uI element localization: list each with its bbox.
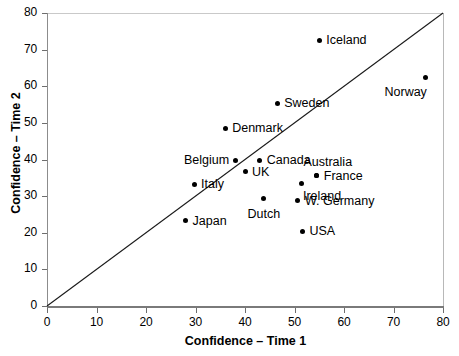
identity-reference-line [47, 13, 443, 306]
x-axis-tick-label: 50 [280, 315, 310, 329]
data-point-norway [423, 75, 428, 80]
data-label-uk: UK [252, 166, 269, 179]
y-axis-title: Confidence – Time 2 [9, 53, 23, 253]
plot-frame-right [443, 13, 444, 307]
data-point-denmark [223, 126, 228, 131]
data-label-usa: USA [309, 225, 335, 238]
data-label-sweden: Sweden [284, 97, 329, 110]
x-axis-tick [443, 308, 444, 313]
data-point-sweden [275, 101, 280, 106]
x-axis-tick [47, 308, 48, 313]
data-point-usa [300, 229, 305, 234]
x-axis-tick-label: 0 [32, 315, 62, 329]
y-axis-tick-label: 10 [5, 261, 37, 275]
x-axis-tick [295, 308, 296, 313]
data-label-australia: Australia [303, 156, 352, 169]
data-label-japan: Japan [193, 214, 227, 227]
data-label-denmark: Denmark [232, 122, 283, 135]
x-axis-tick-label: 40 [230, 315, 260, 329]
data-label-italy: Italy [201, 178, 224, 191]
plot-area: IcelandNorwaySwedenDenmarkBelgiumCanadaA… [47, 13, 443, 306]
x-axis-title: Confidence – Time 1 [47, 334, 444, 348]
x-axis-tick-label: 60 [329, 315, 359, 329]
y-axis-tick-label: 80 [5, 5, 37, 19]
data-label-dutch: Dutch [247, 208, 280, 221]
data-point-iceland [317, 38, 322, 43]
data-label-iceland: Iceland [326, 34, 366, 47]
data-point-belgium [233, 158, 238, 163]
x-axis-tick [245, 308, 246, 313]
data-label-belgium: Belgium [184, 154, 229, 167]
scatter-plot-figure: 0102030405060708001020304050607080 Icela… [0, 0, 459, 356]
x-axis-tick-label: 20 [131, 315, 161, 329]
x-axis-tick-label: 80 [428, 315, 458, 329]
x-axis-tick-label: 70 [379, 315, 409, 329]
x-axis-tick [344, 308, 345, 313]
x-axis-tick [196, 308, 197, 313]
x-axis-tick [146, 308, 147, 313]
data-label-w-germany: W. Germany [305, 195, 374, 208]
data-point-italy [192, 182, 197, 187]
x-axis-tick-label: 10 [82, 315, 112, 329]
x-axis-tick [97, 308, 98, 313]
data-label-norway: Norway [384, 86, 426, 99]
x-axis-tick-label: 30 [181, 315, 211, 329]
data-label-france: France [324, 170, 363, 183]
x-axis-tick [394, 308, 395, 313]
y-axis-tick [42, 306, 47, 307]
y-axis-tick-label: 0 [5, 298, 37, 312]
